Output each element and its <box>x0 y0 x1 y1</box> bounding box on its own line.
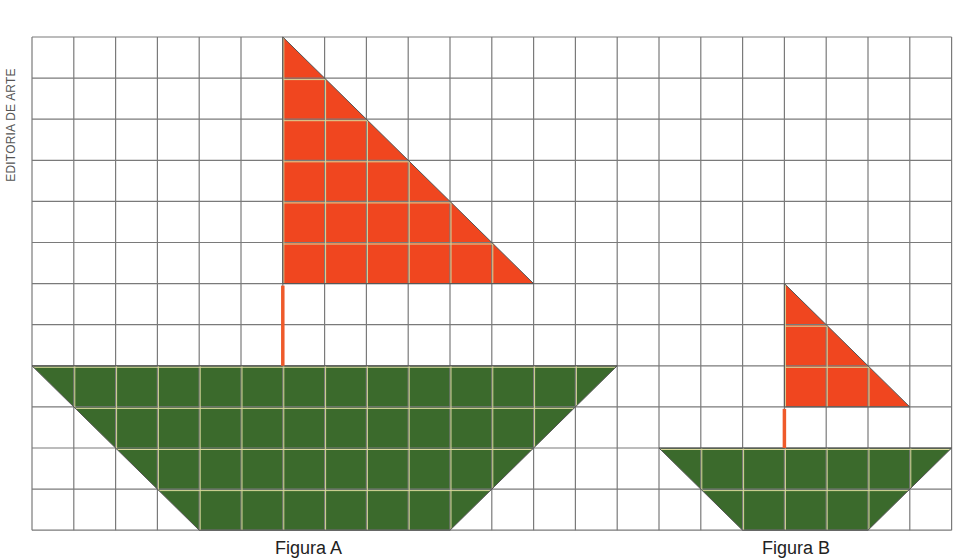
caption-figure-b: Figura B <box>762 538 830 559</box>
caption-figure-a: Figura A <box>275 538 342 559</box>
